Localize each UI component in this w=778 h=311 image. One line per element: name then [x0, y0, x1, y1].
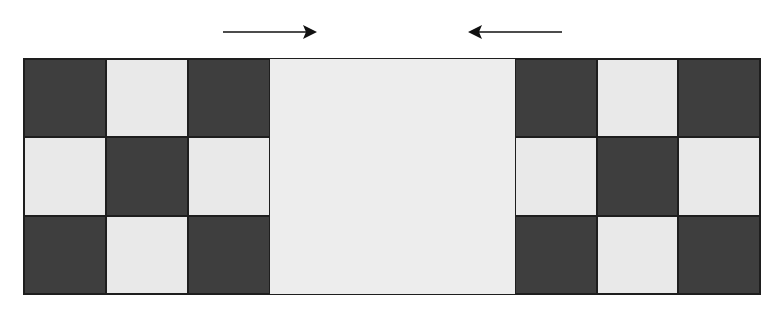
left-nine-patch-block	[24, 59, 270, 294]
patch-cell	[597, 137, 679, 215]
patch-cell	[678, 59, 760, 137]
patch-cell	[106, 216, 188, 294]
center-panel	[270, 59, 515, 294]
patch-cell	[106, 137, 188, 215]
quilt-row	[23, 58, 761, 295]
patch-cell	[106, 59, 188, 137]
patch-cell	[597, 59, 679, 137]
patch-cell	[515, 216, 597, 294]
patch-cell	[188, 59, 270, 137]
patch-cell	[515, 137, 597, 215]
patch-cell	[188, 216, 270, 294]
right-nine-patch-block	[515, 59, 760, 294]
patch-cell	[678, 137, 760, 215]
patch-cell	[24, 216, 106, 294]
patch-cell	[678, 216, 760, 294]
patch-cell	[188, 137, 270, 215]
patch-cell	[597, 216, 679, 294]
arrow-left-icon	[0, 0, 778, 60]
patch-cell	[515, 59, 597, 137]
patch-cell	[24, 137, 106, 215]
patch-cell	[24, 59, 106, 137]
